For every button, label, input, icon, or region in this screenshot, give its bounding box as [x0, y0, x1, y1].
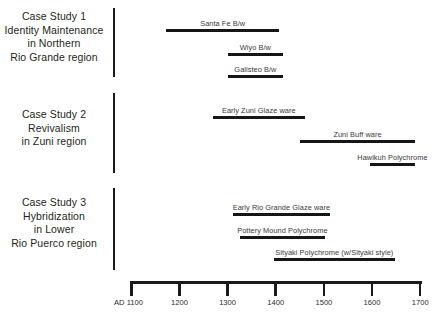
ware-span-line [300, 140, 415, 143]
case-study-2-line-3: in Zuni region [0, 135, 108, 149]
axis-tick-label: 1700 [412, 298, 429, 307]
case-study-3-line-1: Case Study 3 [0, 196, 108, 210]
case-study-1-line-2: Identity Maintenance [0, 24, 108, 38]
case-study-3-line-4: Rio Puerco region [0, 237, 108, 251]
axis-tick-label: 1400 [267, 298, 284, 307]
case-study-1-line-4: Rio Grande region [0, 51, 108, 65]
ware-span-line [228, 53, 283, 56]
axis-tick [226, 281, 229, 296]
ware-span: Hawikuh Polychrome [370, 150, 415, 166]
ware-span: Wiyo B/w [228, 40, 283, 56]
axis-tick-label: 1200 [171, 298, 188, 307]
ware-span-label: Hawikuh Polychrome [357, 153, 427, 162]
ware-span-label: Sityaki Polychrome (w/Sityaki style) [275, 248, 393, 257]
axis-tick [130, 281, 133, 296]
ware-span-line [166, 29, 279, 32]
axis-tick [419, 281, 422, 296]
ware-span-label: Early Rio Grande Glaze ware [233, 203, 330, 212]
ware-span-label: Santa Fe B/w [200, 19, 245, 28]
axis-tick [323, 281, 326, 296]
case-study-2-rule [113, 93, 115, 173]
ware-span-line [233, 213, 330, 216]
axis-tick-label: 1300 [219, 298, 236, 307]
case-study-1-line-3: in Northern [0, 37, 108, 51]
case-study-3-label: Case Study 3Hybridizationin LowerRio Pue… [0, 196, 108, 250]
case-study-3-line-2: Hybridization [0, 210, 108, 224]
ware-span-label: Galisteo B/w [234, 65, 276, 74]
case-study-1-line-1: Case Study 1 [0, 10, 108, 24]
case-study-2-line-2: Revivalism [0, 122, 108, 136]
ware-span-line [240, 236, 325, 239]
case-study-3-rule [113, 188, 115, 270]
case-study-2-label: Case Study 2Revivalismin Zuni region [0, 108, 108, 149]
ware-span: Galisteo B/w [228, 62, 283, 78]
ware-span: Sityaki Polychrome (w/Sityaki style) [274, 245, 395, 261]
ware-span: Early Rio Grande Glaze ware [233, 200, 330, 216]
ware-span: Zuni Buff ware [300, 127, 415, 143]
ware-span: Santa Fe B/w [166, 16, 279, 32]
case-study-3-line-3: in Lower [0, 223, 108, 237]
case-study-2-line-1: Case Study 2 [0, 108, 108, 122]
ware-span-line [274, 258, 395, 261]
axis-tick [178, 281, 181, 296]
ware-span: Pottery Mound Polychrome [240, 223, 325, 239]
axis-tick-label: 1500 [315, 298, 332, 307]
case-study-1-rule [113, 8, 115, 77]
ware-span-line [228, 75, 283, 78]
ware-span-line [370, 163, 415, 166]
ware-span-label: Early Zuni Glaze ware [222, 106, 296, 115]
axis-tick [274, 281, 277, 296]
ware-span-label: Pottery Mound Polychrome [237, 226, 327, 235]
case-study-1-label: Case Study 1Identity Maintenancein North… [0, 10, 108, 64]
ware-span: Early Zuni Glaze ware [213, 103, 305, 119]
ware-span-line [213, 116, 305, 119]
ware-span-label: Wiyo B/w [240, 43, 271, 52]
axis-tick [371, 281, 374, 296]
axis-tick-label: AD 1100 [114, 298, 143, 307]
axis-tick-label: 1600 [364, 298, 381, 307]
timeline-figure: Case Study 1Identity Maintenancein North… [0, 0, 434, 319]
ware-span-label: Zuni Buff ware [333, 130, 381, 139]
